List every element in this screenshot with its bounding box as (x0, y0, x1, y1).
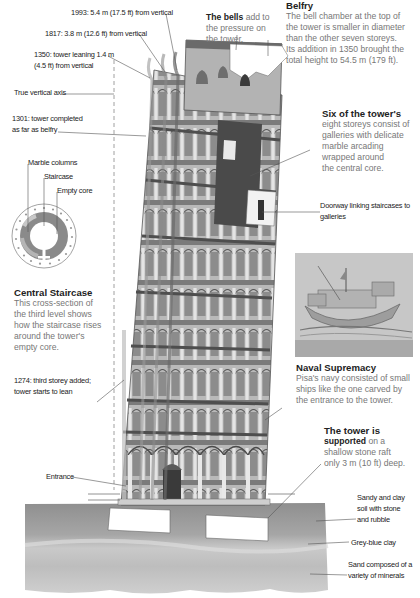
central-staircase-heading: Central Staircase (14, 287, 114, 298)
label-soil-layer-1: and rubble (357, 515, 390, 525)
belfry-body-line: The bell chamber at the top of (286, 11, 420, 22)
belfry-body-line: than the other seven storeys. (286, 33, 420, 44)
storeys-heading: Six of the tower's (322, 108, 420, 119)
label-staircase: Staircase (44, 172, 73, 182)
label-entrance: Entrance (46, 472, 74, 482)
label-soil-layer-1: Sandy and clay (357, 493, 405, 503)
storeys-body-line: the central core. (322, 163, 420, 174)
label-soil-layer-3: variety of minerals (348, 571, 404, 581)
central-staircase-body-line: around the tower's (14, 331, 114, 342)
label-doorway-line2: galleries (320, 212, 346, 222)
central-staircase-caption: Central Staircase This cross-section of … (14, 287, 114, 353)
naval-caption: Naval Supremacy Pisa's navy consisted of… (296, 362, 420, 406)
foundation-caption: The tower is supported on a shallow ston… (324, 425, 420, 469)
foundation-body-line: only 3 m (10 ft) deep. (324, 458, 420, 469)
label-1350-line1: 1350: tower leaning 1.4 m (34, 50, 114, 60)
label-marble-columns: Marble columns (28, 158, 77, 168)
naval-heading: Naval Supremacy (296, 362, 420, 373)
bells-heading: The bells (206, 12, 243, 22)
naval-body-line: ships like the one carved by (296, 384, 420, 395)
foundation-raft-right (206, 515, 268, 541)
label-soil-layer-3: Sand composed of a (348, 560, 412, 570)
storeys-body-line: eight storeys consist of (322, 119, 420, 130)
label-1350-line2: (4.5 ft) from vertical (34, 61, 93, 71)
bells-body-line: the pressure on (206, 23, 296, 34)
belfry-body-line: Its addition in 1350 brought the (286, 44, 420, 55)
label-soil-layer-2: Grey-blue clay (351, 538, 396, 548)
belfry-heading: Belfry (286, 0, 420, 11)
foundation-heading-2: supported (324, 436, 366, 446)
foundation-body-inline: on a (366, 436, 385, 446)
label-1817: 1817: 3.8 m (12.6 ft) from vertical (45, 29, 147, 39)
central-staircase-body-line: the third level shows (14, 309, 114, 320)
belfry-body-line: the tower is smaller in diameter (286, 22, 420, 33)
foundation-heading: The tower is (324, 425, 420, 436)
storeys-caption: Six of the tower's eight storeys consist… (322, 108, 420, 174)
central-staircase-body-line: This cross-section of (14, 298, 114, 309)
storeys-body-line: wrapped around (322, 152, 420, 163)
foundation-body-line: shallow stone raft (324, 447, 420, 458)
belfry-caption: Belfry The bell chamber at the top of th… (286, 0, 420, 66)
foundation-raft-left (108, 508, 170, 533)
label-1301-line1: 1301: tower completed (12, 114, 83, 124)
label-true-vertical-axis: True vertical axis (14, 88, 66, 98)
label-1301-line2: as far as belfry (12, 125, 57, 135)
label-1993: 1993: 5.4 m (17.5 ft) from vertical (71, 8, 173, 18)
belfry-body-line: total height to 54.5 m (179 ft). (286, 55, 420, 66)
label-1274-line1: 1274: third storey added; (14, 376, 91, 386)
soil-ground (25, 503, 328, 594)
bells-body-line: the tower. (206, 34, 296, 45)
label-doorway-line1: Doorway linking staircases to (320, 201, 410, 211)
storeys-body-line: marble arcading (322, 141, 420, 152)
central-staircase-body-line: how the staircase rises (14, 320, 114, 331)
bells-caption: The bells add to the pressure on the tow… (206, 12, 296, 45)
label-soil-layer-1: soil with stone (357, 504, 400, 514)
tower-body (88, 40, 295, 505)
bells-body-line: add to (243, 12, 269, 22)
naval-body-line: the entrance to the tower. (296, 395, 420, 406)
label-empty-core: Empty core (57, 186, 92, 196)
central-staircase-body-line: empty core. (14, 342, 114, 353)
naval-body-line: Pisa's navy consisted of small (296, 373, 420, 384)
storeys-body-line: galleries with delicate (322, 130, 420, 141)
label-1274-line2: tower starts to lean (14, 387, 72, 397)
